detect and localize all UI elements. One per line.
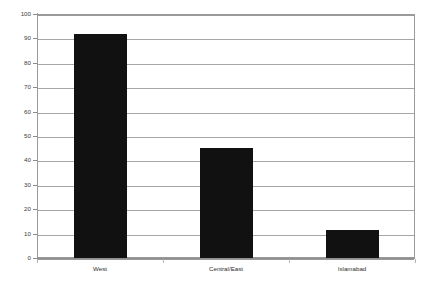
y-axis-tick-label-0: 0 <box>28 255 31 261</box>
x-axis-tick-label-islamabad: Islamabad <box>338 266 367 272</box>
y-axis-tick-80 <box>33 63 37 64</box>
y-axis-tick-20 <box>33 209 37 210</box>
x-axis-tick-label-west: West <box>93 266 107 272</box>
x-axis-tick-0 <box>37 259 38 263</box>
y-axis-tick-100 <box>33 14 37 15</box>
y-axis-tick-label-30: 30 <box>24 182 31 188</box>
y-axis-tick-10 <box>33 234 37 235</box>
y-axis-tick-label-20: 20 <box>24 206 31 212</box>
y-axis-tick-label-90: 90 <box>24 35 31 41</box>
bar-central-east <box>200 148 253 258</box>
y-axis-tick-40 <box>33 160 37 161</box>
x-axis-tick-3 <box>415 259 416 263</box>
y-axis-tick-label-70: 70 <box>24 84 31 90</box>
y-axis-tick-labels: 0102030405060708090100 <box>0 0 33 285</box>
y-axis-tick-50 <box>33 136 37 137</box>
x-axis-tick-label-central-east: Central/East <box>209 266 243 272</box>
y-axis-tick-label-80: 80 <box>24 60 31 66</box>
x-axis-tick-1 <box>163 259 164 263</box>
y-axis-tick-70 <box>33 87 37 88</box>
y-axis-tick-label-60: 60 <box>24 109 31 115</box>
y-axis-spine <box>37 13 38 259</box>
bars-layer <box>37 14 415 258</box>
y-axis-tick-label-100: 100 <box>21 11 31 17</box>
y-axis-tick-label-40: 40 <box>24 157 31 163</box>
bar-west <box>74 34 127 258</box>
bar-chart: 0102030405060708090100 WestCentral/EastI… <box>0 0 434 285</box>
y-axis-tick-label-10: 10 <box>24 231 31 237</box>
y-axis-tick-90 <box>33 38 37 39</box>
y-axis-tick-30 <box>33 185 37 186</box>
y-axis-tick-label-50: 50 <box>24 133 31 139</box>
x-axis-line <box>37 258 415 259</box>
bar-islamabad <box>326 230 379 258</box>
x-axis-tick-2 <box>289 259 290 263</box>
gridline-0 <box>38 259 414 260</box>
y-axis-tick-60 <box>33 112 37 113</box>
